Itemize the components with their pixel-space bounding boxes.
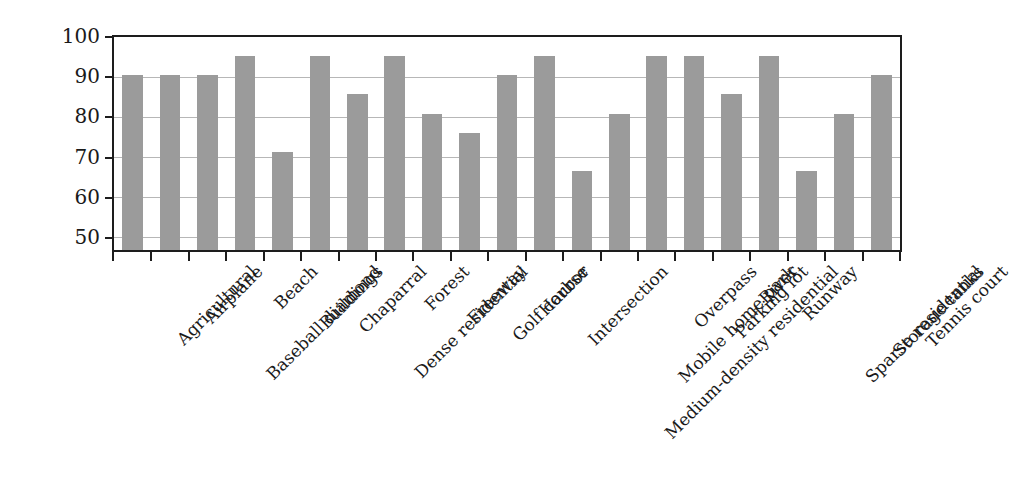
x-axis-tick [674, 252, 676, 261]
x-axis-tick-label: Beach [271, 262, 321, 312]
x-axis-tick [637, 252, 639, 261]
y-axis-tick [105, 237, 114, 239]
bar [646, 56, 667, 250]
bar [422, 114, 443, 250]
y-axis-tick [105, 36, 114, 38]
y-axis-tick [105, 197, 114, 199]
bar [347, 94, 368, 250]
x-axis-tick [487, 252, 489, 261]
x-axis-tick [562, 252, 564, 261]
y-axis-tick-labels: 5060708090100 [54, 35, 100, 252]
bar [871, 75, 892, 250]
x-axis-tick [150, 252, 152, 261]
bar [834, 114, 855, 250]
x-axis-tick [412, 252, 414, 261]
y-axis-tick-label: 50 [54, 227, 100, 247]
x-axis-tick [600, 252, 602, 261]
y-axis-tick [105, 76, 114, 78]
x-axis-tick [300, 252, 302, 261]
bar [384, 56, 405, 250]
x-axis-tick [899, 252, 901, 261]
y-axis-tick [105, 116, 114, 118]
bar [310, 56, 331, 250]
y-axis-tick-label: 60 [54, 187, 100, 207]
bar [609, 114, 630, 250]
x-axis-tick-label: Harbor [535, 262, 592, 319]
x-axis-tick [862, 252, 864, 261]
y-axis-tick [105, 157, 114, 159]
bar [197, 75, 218, 250]
x-axis-tick-label: Freeway [464, 262, 529, 327]
x-axis-tick [712, 252, 714, 261]
x-axis-tick [338, 252, 340, 261]
y-axis-tick-label: 70 [54, 147, 100, 167]
bar [721, 94, 742, 250]
x-axis-tick [263, 252, 265, 261]
bar [684, 56, 705, 250]
x-axis-tick-label: Medium-density residential [661, 262, 841, 442]
plot-inner [114, 37, 900, 250]
x-axis-ticks [112, 252, 902, 262]
bar [796, 171, 817, 250]
x-axis-tick [824, 252, 826, 261]
x-axis-tick [112, 252, 114, 261]
bar [160, 75, 181, 250]
x-axis-tick [450, 252, 452, 261]
x-axis-tick-label: Intersection [585, 262, 672, 349]
x-axis-tick [787, 252, 789, 261]
bar [572, 171, 593, 250]
bar [272, 152, 293, 250]
x-axis-tick-label: Forest [421, 262, 473, 314]
bar [534, 56, 555, 250]
bar [759, 56, 780, 250]
x-axis-tick [749, 252, 751, 261]
x-axis-tick [525, 252, 527, 261]
x-axis-tick [225, 252, 227, 261]
x-axis-tick [375, 252, 377, 261]
bar [497, 75, 518, 250]
y-axis-tick-label: 80 [54, 106, 100, 126]
plot-area [112, 35, 902, 252]
bar [459, 133, 480, 250]
y-axis-tick-label: 100 [54, 26, 100, 46]
x-axis-tick [188, 252, 190, 261]
x-axis-tick-label: Airplane [202, 262, 267, 327]
y-axis-tick-label: 90 [54, 66, 100, 86]
bar [235, 56, 256, 250]
bar [122, 75, 143, 250]
